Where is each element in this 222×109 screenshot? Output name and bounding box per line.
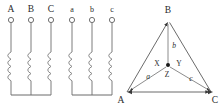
terminal-label-C: C xyxy=(48,4,54,14)
phasor-label-c: c xyxy=(189,74,193,83)
coil-winding-B xyxy=(28,52,31,81)
terminal-label-c: c xyxy=(110,5,114,14)
coil-winding-b xyxy=(89,52,92,81)
terminal-label-b: b xyxy=(90,5,94,14)
terminal-label-B: B xyxy=(28,4,34,14)
phasor-node-label-Y: Y xyxy=(176,59,182,68)
coil-winding-C xyxy=(48,52,51,81)
transformer-phasor-diagram: A B C a b c A B C a b c X Y Z xyxy=(0,0,222,109)
neutral-node-dot xyxy=(166,63,170,67)
coil-winding-A xyxy=(8,52,11,81)
terminal-circle-B[interactable] xyxy=(28,17,33,22)
terminal-circle-a[interactable] xyxy=(69,17,74,22)
phasor-node-label-Z: Z xyxy=(165,70,170,79)
terminal-circle-c[interactable] xyxy=(109,17,114,22)
coil-winding-c xyxy=(109,52,112,81)
phasor-label-a: a xyxy=(146,72,150,81)
phasor-vertex-label-C: C xyxy=(212,95,218,105)
phasor-vertex-label-B: B xyxy=(165,5,171,15)
terminal-label-A: A xyxy=(8,4,15,14)
coil-winding-a xyxy=(69,52,72,81)
terminal-label-a: a xyxy=(70,5,74,14)
diagram-canvas: A B C a b c A B C a b c X Y Z xyxy=(0,0,222,109)
triangle-side-AB xyxy=(127,23,168,93)
phasor-vertex-label-A: A xyxy=(118,95,125,105)
terminal-circle-A[interactable] xyxy=(8,17,13,22)
phasor-triangle xyxy=(127,23,213,95)
primary-wye-winding xyxy=(8,17,54,95)
terminal-circle-b[interactable] xyxy=(89,17,94,22)
secondary-wye-winding xyxy=(69,17,115,95)
terminal-circle-C[interactable] xyxy=(48,17,53,22)
phasor-node-label-X: X xyxy=(154,59,160,68)
phasor-label-b: b xyxy=(172,41,176,50)
